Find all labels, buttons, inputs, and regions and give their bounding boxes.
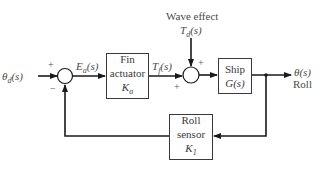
roll-sensor-title: Roll	[182, 113, 201, 127]
plus-sign-disturbance: +	[198, 58, 204, 68]
summing-junction-1	[58, 69, 73, 84]
input-label: θd(s)	[2, 70, 23, 87]
ship-title: Ship	[225, 62, 245, 76]
fin-actuator-gain: Ka	[122, 80, 133, 99]
summing-junction-2	[183, 67, 199, 83]
wave-effect-title: Wave effect	[166, 10, 218, 22]
branch-point	[264, 73, 268, 77]
minus-sign-feedback: −	[50, 84, 56, 94]
roll-sensor-gain: K1	[185, 141, 196, 160]
diagram-wires	[0, 0, 323, 176]
roll-sensor-block: Roll sensor K1	[169, 114, 213, 160]
plus-sign-torque: +	[174, 82, 180, 92]
plus-sign-input: +	[48, 60, 54, 70]
ship-transfer-function: G(s)	[225, 76, 245, 90]
output-name: Roll	[293, 78, 312, 90]
fin-actuator-subtitle: actuator	[110, 66, 145, 80]
output-label: θ(s)	[294, 66, 311, 78]
disturbance-label: Td(s)	[180, 24, 202, 41]
fin-actuator-block: Fin actuator Ka	[106, 53, 149, 99]
ship-block: Ship G(s)	[218, 58, 252, 94]
fin-torque-label: Tf(s)	[152, 60, 172, 77]
fin-actuator-title: Fin	[120, 52, 135, 66]
error-signal-label: Ea(s)	[76, 60, 98, 77]
block-diagram: θd(s) + − Ea(s) Fin actuator Ka Tf(s) Wa…	[0, 0, 323, 176]
roll-sensor-subtitle: sensor	[177, 127, 205, 141]
